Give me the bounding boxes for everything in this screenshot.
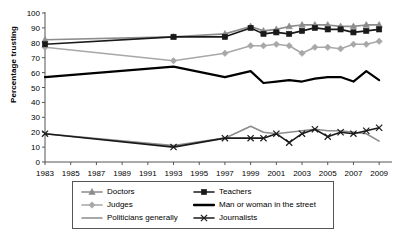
x-tick-label: 1987 <box>88 169 106 178</box>
line-icon <box>81 213 103 223</box>
x-tick-label: 1997 <box>216 169 234 178</box>
data-point-marker <box>260 43 266 49</box>
data-point-marker <box>364 28 369 33</box>
legend-label: Teachers <box>219 187 251 197</box>
data-point-marker <box>338 27 343 32</box>
legend-item-journalists[interactable]: Journalists <box>193 213 327 223</box>
legend-item-judges[interactable]: Judges <box>81 200 193 210</box>
x-tick-label: 1989 <box>113 169 131 178</box>
data-point-marker <box>325 44 331 50</box>
series-teachers <box>42 25 381 47</box>
data-point-marker <box>222 34 227 39</box>
x-tick-label: 2009 <box>370 169 388 178</box>
x-tick-label: 1993 <box>165 169 183 178</box>
data-point-marker <box>273 41 279 47</box>
chart-figure: Percentage trusting 01020304050607080901… <box>0 0 404 233</box>
legend-item-man-or-woman-in-the-street[interactable]: Man or woman in the street <box>193 200 327 210</box>
data-point-marker <box>261 31 266 36</box>
x-tick-label: 2005 <box>319 169 337 178</box>
data-point-marker <box>171 34 176 39</box>
line-chart-svg: 0102030405060708090100 19831985198719891… <box>0 0 404 178</box>
x-tick-label: 1983 <box>36 169 54 178</box>
data-point-marker <box>274 30 279 35</box>
x-tick-label: 2003 <box>293 169 311 178</box>
legend-label: Man or woman in the street <box>219 200 316 210</box>
x-tick-label: 2007 <box>345 169 363 178</box>
data-point-marker <box>222 50 228 56</box>
diamond-icon <box>81 200 103 210</box>
data-point-marker <box>376 38 382 44</box>
x-tick-labels: 1983198519871989199119931995199719992001… <box>36 169 388 178</box>
legend-item-teachers[interactable]: Teachers <box>193 187 327 197</box>
x-tick-label: 2001 <box>267 169 285 178</box>
legend-label: Doctors <box>107 187 135 197</box>
data-point-marker <box>312 25 317 30</box>
y-tick-label: 10 <box>31 143 40 152</box>
y-tick-label: 70 <box>31 54 40 63</box>
triangle-icon <box>81 187 103 197</box>
data-point-marker <box>312 44 318 50</box>
legend-item-doctors[interactable]: Doctors <box>81 187 193 197</box>
data-point-marker <box>337 46 343 52</box>
data-point-marker <box>351 30 356 35</box>
y-tick-labels: 0102030405060708090100 <box>27 9 41 167</box>
x-icon <box>193 213 215 223</box>
data-point-marker <box>89 201 95 207</box>
x-tick-label: 1985 <box>62 169 80 178</box>
data-point-marker <box>247 43 253 49</box>
series-group <box>42 22 383 151</box>
legend-label: Journalists <box>219 213 257 223</box>
legend-label: Politicians generally <box>107 213 178 223</box>
y-tick-label: 50 <box>31 84 40 93</box>
plot-area: Percentage trusting 01020304050607080901… <box>0 0 404 178</box>
data-point-marker <box>299 50 305 56</box>
y-tick-label: 0 <box>36 158 41 167</box>
legend-item-politicians-generally[interactable]: Politicians generally <box>81 213 193 223</box>
data-point-marker <box>286 43 292 49</box>
legend-grid: DoctorsTeachersJudgesMan or woman in the… <box>81 185 327 225</box>
series-doctors <box>42 22 383 43</box>
y-tick-label: 60 <box>31 69 40 78</box>
data-point-marker <box>286 140 292 146</box>
y-tick-label: 90 <box>31 24 40 33</box>
y-tick-label: 20 <box>31 128 40 137</box>
data-point-marker <box>248 25 253 30</box>
data-point-marker <box>299 28 304 33</box>
x-tick-label: 1991 <box>139 169 157 178</box>
data-point-marker <box>170 57 176 63</box>
y-tick-label: 40 <box>31 98 40 107</box>
x-tick-label: 1999 <box>242 169 260 178</box>
data-point-marker <box>42 42 47 47</box>
y-tick-label: 100 <box>27 9 41 18</box>
y-tick-label: 30 <box>31 113 40 122</box>
data-point-marker <box>350 41 356 47</box>
thickline-icon <box>193 200 215 210</box>
chart-legend: DoctorsTeachersJudgesMan or woman in the… <box>72 181 334 229</box>
data-point-marker <box>287 31 292 36</box>
data-point-marker <box>325 27 330 32</box>
data-point-marker <box>377 27 382 32</box>
data-point-marker <box>363 41 369 47</box>
y-tick-label: 80 <box>31 39 40 48</box>
legend-label: Judges <box>107 200 133 210</box>
y-axis-label: Percentage trusting <box>9 5 18 125</box>
square-icon <box>193 187 215 197</box>
data-point-marker <box>201 189 206 194</box>
x-tick-label: 1995 <box>190 169 208 178</box>
series-man-or-woman-in-the-street <box>45 67 379 83</box>
